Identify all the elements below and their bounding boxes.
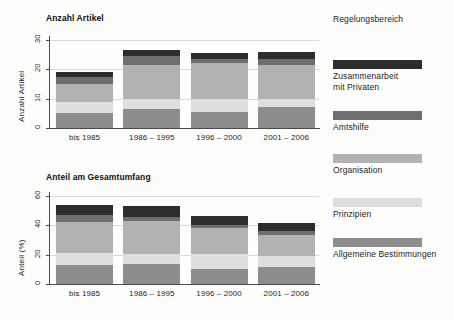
bar-stack [191, 53, 248, 128]
legend-entry: Allgemeine Bestimmungen [333, 238, 453, 260]
legend-entry: Amtshilfe [333, 111, 453, 133]
y-tick-label: 10 [33, 91, 42, 105]
bar-segment [191, 228, 248, 254]
bar-stack [56, 205, 113, 284]
y-tick-mark [46, 128, 49, 129]
legend-entry: Organisation [333, 154, 453, 176]
legend-swatch [333, 60, 422, 69]
legend-swatch [333, 198, 422, 207]
x-tick-label: bis 1985 [51, 289, 118, 298]
bar-segment [191, 254, 248, 269]
y-tick-label: 60 [33, 188, 42, 202]
bar-segment [191, 216, 248, 225]
x-axis-line [49, 284, 320, 285]
bar-segment [56, 265, 113, 284]
bar-segment [56, 113, 113, 128]
bar-segment [56, 222, 113, 253]
y-tick-label: 0 [33, 120, 42, 134]
bar-segment [258, 65, 315, 99]
legend-label: Zusammenarbeit mit Privaten [333, 71, 453, 92]
chart-title: Anteil am Gesamtumfang [46, 172, 151, 182]
bar-segment [258, 52, 315, 59]
y-tick-label: 20 [33, 247, 42, 261]
bar-stack [258, 52, 315, 128]
y-tick-mark [46, 40, 49, 41]
bar-segment [258, 99, 315, 108]
y-axis-line [49, 192, 50, 285]
grid-line [50, 196, 319, 197]
x-tick-label: 2001 – 2006 [253, 133, 320, 142]
x-tick-label: 1996 – 2000 [186, 133, 253, 142]
y-tick-mark [46, 284, 49, 285]
y-tick-label: 20 [33, 61, 42, 75]
y-tick-mark [46, 225, 49, 226]
x-axis-line [49, 128, 320, 129]
grid-line [50, 40, 319, 41]
bar-segment [56, 84, 113, 102]
y-tick-label: 0 [33, 276, 42, 290]
bar-segment [123, 65, 180, 99]
bar-segment [123, 221, 180, 254]
x-tick-label: 1986 – 1995 [118, 133, 185, 142]
bar-segment [258, 267, 315, 284]
y-tick-label: 40 [33, 217, 42, 231]
legend-label: Allgemeine Bestimmungen [333, 249, 453, 260]
bar-segment [56, 102, 113, 114]
y-tick-mark [46, 69, 49, 70]
y-axis-line [49, 36, 50, 129]
legend-swatch [333, 111, 422, 120]
bar-stack [258, 223, 315, 284]
bar-segment [123, 109, 180, 128]
bar-stack [191, 216, 248, 284]
bar-segment [123, 206, 180, 217]
y-tick-mark [46, 99, 49, 100]
x-tick-label: 2001 – 2006 [253, 289, 320, 298]
bar-stack [123, 206, 180, 284]
legend-swatch [333, 154, 422, 163]
x-tick-label: 1996 – 2000 [186, 289, 253, 298]
bar-segment [56, 77, 113, 84]
bar-segment [123, 56, 180, 65]
y-axis-title: Anzahl Artikel [17, 44, 26, 122]
y-tick-mark [46, 255, 49, 256]
x-tick-label: bis 1985 [51, 133, 118, 142]
chart-title: Anzahl Artikel [46, 13, 104, 23]
legend-label: Amtshilfe [333, 122, 453, 133]
legend-label: Organisation [333, 165, 453, 176]
bar-segment [56, 205, 113, 215]
legend-title: Regelungsbereich [333, 14, 453, 24]
bar-stack [123, 50, 180, 128]
bar-segment [56, 215, 113, 222]
bar-segment [123, 264, 180, 284]
bar-segment [123, 99, 180, 109]
legend-label: Prinzipien [333, 209, 453, 220]
bar-segment [258, 107, 315, 128]
legend: Regelungsbereich Zusammenarbeit mit Priv… [333, 14, 453, 24]
bar-stack [56, 72, 113, 128]
bar-segment [56, 253, 113, 265]
bar-segment [258, 223, 315, 231]
bar-segment [258, 256, 315, 267]
bar-segment [191, 99, 248, 112]
bar-segment [191, 63, 248, 98]
y-tick-label: 30 [33, 32, 42, 46]
y-tick-mark [46, 196, 49, 197]
legend-entry: Zusammenarbeit mit Privaten [333, 60, 453, 92]
bar-segment [258, 235, 315, 256]
y-axis-title: Anteil (%) [17, 204, 26, 276]
bar-segment [191, 112, 248, 128]
legend-swatch [333, 238, 422, 247]
legend-entry: Prinzipien [333, 198, 453, 220]
bar-segment [191, 269, 248, 284]
bar-segment [123, 254, 180, 264]
x-tick-label: 1986 – 1995 [118, 289, 185, 298]
